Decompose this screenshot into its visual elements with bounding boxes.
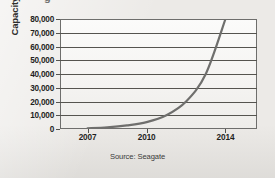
x-tick-label: 2014 bbox=[217, 133, 235, 142]
y-tick-label: 0 bbox=[10, 125, 54, 134]
cut-off-title-fragment: g bbox=[44, 0, 84, 3]
y-tick-label: 10,000 bbox=[10, 111, 54, 120]
y-tick-mark bbox=[56, 60, 60, 61]
y-tick-label: 20,000 bbox=[10, 97, 54, 106]
source-note: Source: Seagate bbox=[0, 152, 275, 161]
y-tick-mark bbox=[56, 102, 60, 103]
y-tick-mark bbox=[56, 74, 60, 75]
y-tick-label: 30,000 bbox=[10, 83, 54, 92]
capacity-line-series bbox=[60, 19, 257, 129]
chart-figure: g Capacity in Gigabytes 010,00020,00030,… bbox=[0, 0, 275, 178]
y-tick-mark bbox=[56, 19, 60, 20]
y-tick-label: 70,000 bbox=[10, 28, 54, 37]
x-tick-mark bbox=[147, 129, 148, 133]
y-tick-mark bbox=[56, 88, 60, 89]
y-tick-label: 60,000 bbox=[10, 42, 54, 51]
y-tick-mark bbox=[56, 129, 60, 130]
y-tick-mark bbox=[56, 47, 60, 48]
x-tick-label: 2007 bbox=[79, 133, 97, 142]
y-tick-label: 40,000 bbox=[10, 70, 54, 79]
y-tick-label: 50,000 bbox=[10, 56, 54, 65]
y-tick-label: 80,000 bbox=[10, 15, 54, 24]
y-tick-mark bbox=[56, 115, 60, 116]
x-tick-mark bbox=[225, 129, 226, 133]
plot-area bbox=[60, 19, 257, 129]
x-tick-mark bbox=[88, 129, 89, 133]
x-tick-label: 2010 bbox=[138, 133, 156, 142]
y-tick-mark bbox=[56, 33, 60, 34]
